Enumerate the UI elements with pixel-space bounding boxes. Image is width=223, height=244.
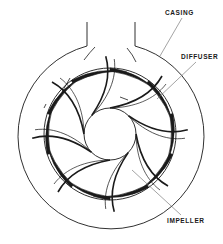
diffuser-label: DIFFUSER xyxy=(181,54,218,61)
casing-leader xyxy=(160,18,182,56)
diffuser-vanes xyxy=(31,51,189,217)
impeller-eye xyxy=(84,108,136,160)
diffuser-leader xyxy=(157,62,196,99)
pump-diagram: CASING DIFFUSER IMPELLER xyxy=(0,0,223,244)
impeller-vanes xyxy=(29,53,190,214)
pump-cross-section-drawing xyxy=(0,0,223,244)
casing-label: CASING xyxy=(165,10,194,17)
impeller-label: IMPELLER xyxy=(167,218,205,225)
diffuser-ring xyxy=(44,68,176,200)
